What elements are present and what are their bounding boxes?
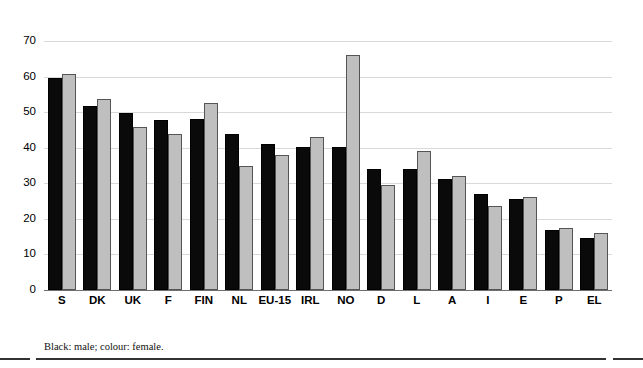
bar-female [488,206,502,290]
bar-group [364,41,400,290]
bar-female [452,176,466,290]
bar-group [470,41,506,290]
footer-rule [36,358,606,360]
x-tick-label: NL [222,294,258,308]
bar-group [328,41,364,290]
bar-male [119,113,133,290]
bar-group [257,41,293,290]
bar-male [48,78,62,290]
bar-group [44,41,80,290]
bar-group [151,41,187,290]
bar-female [417,151,431,290]
bar-female [97,99,111,290]
bar-group [115,41,151,290]
y-tick-label: 60 [2,71,36,83]
x-tick-label: F [151,294,187,308]
bar-male [367,169,381,290]
bar-male [332,147,346,290]
bar-group [577,41,613,290]
chart-caption: Black: male; colour: female. [44,341,164,352]
bar-group [541,41,577,290]
y-tick-label: 10 [2,248,36,260]
x-tick-label: D [364,294,400,308]
bar-male [225,134,239,291]
x-tick-label: A [435,294,471,308]
bar-group [435,41,471,290]
bar-group [293,41,329,290]
bar-female [168,134,182,291]
bar-female [275,155,289,290]
y-tick-label: 20 [2,213,36,225]
bar-female [310,137,324,290]
bar-group [222,41,258,290]
x-axis-labels: SDKUKFFINNLEU-15IRLNODLAIEPEL [44,294,612,308]
y-tick-label: 40 [2,142,36,154]
footer-rule-left [0,358,30,360]
x-tick-label: P [541,294,577,308]
bar-female [204,103,218,290]
bar-female [381,185,395,290]
x-tick-label: EU-15 [257,294,293,308]
bar-male [580,238,594,290]
bar-group [506,41,542,290]
bar-female [133,127,147,290]
x-tick-label: UK [115,294,151,308]
y-tick-label: 0 [2,284,36,296]
bar-male [154,120,168,290]
y-tick-label: 50 [2,106,36,118]
x-tick-label: NO [328,294,364,308]
bar-male [83,106,97,290]
bar-chart: 70 60 50 40 30 20 10 0 SDKUKFFINNLEU-15I… [0,0,643,368]
bar-female [62,74,76,290]
x-tick-label: DK [80,294,116,308]
bar-female [523,197,537,290]
x-tick-label: S [44,294,80,308]
y-tick-label: 70 [2,35,36,47]
bar-male [403,169,417,290]
bar-female [559,228,573,290]
bar-group [399,41,435,290]
bar-groups [44,41,612,290]
bar-female [594,233,608,290]
x-tick-label: L [399,294,435,308]
bar-male [261,144,275,290]
bar-male [474,194,488,290]
bar-female [239,166,253,290]
x-tick-label: I [470,294,506,308]
x-tick-label: IRL [293,294,329,308]
bar-male [438,179,452,290]
y-tick-label: 30 [2,177,36,189]
x-tick-label: EL [577,294,613,308]
bar-group [186,41,222,290]
bar-male [545,230,559,290]
x-tick-label: FIN [186,294,222,308]
x-tick-label: E [506,294,542,308]
bar-female [346,55,360,290]
bar-male [509,199,523,290]
bar-male [190,119,204,290]
footer-rule-right [613,358,643,360]
bar-group [80,41,116,290]
bar-male [296,147,310,290]
